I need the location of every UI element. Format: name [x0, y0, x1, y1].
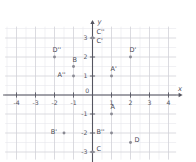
x-axis-label: x [177, 85, 183, 93]
data-point-label-App: A'' [57, 71, 65, 79]
data-point-Cpp [91, 37, 94, 40]
data-point-label-C: C [97, 145, 102, 153]
data-point-label-A: A [111, 103, 116, 111]
x-tick-label: 2 [129, 99, 133, 106]
data-point-D [129, 141, 132, 144]
x-tick-label: 4 [167, 99, 171, 106]
y-tick-label: 2 [84, 53, 88, 60]
y-tick-label: -2 [81, 129, 87, 136]
data-point-label-D: D [135, 136, 140, 144]
data-point-B [72, 65, 75, 68]
axes-group [3, 20, 183, 162]
data-point-App [72, 75, 75, 78]
data-point-Ap [110, 75, 113, 78]
data-point-label-Bpp: B'' [96, 128, 104, 136]
x-tick-label: -1 [70, 99, 76, 106]
data-point-label-Cpp: C'' [97, 28, 105, 36]
data-point-label-Dp: D' [130, 46, 137, 54]
origin-label: 0 [85, 87, 89, 94]
coordinate-plane-figure: -4-3-2-101234321-1-2-3 xy ABCDA'B'C'D'A'… [0, 0, 196, 162]
x-axis-arrow [179, 93, 183, 97]
y-tick-label: -1 [81, 110, 87, 117]
data-point-label-Cp: C' [97, 37, 104, 45]
y-tick-label: 1 [84, 72, 88, 79]
y-tick-label: -3 [81, 148, 87, 155]
y-axis-label: y [97, 18, 103, 26]
x-tick-label: -2 [51, 99, 57, 106]
major-gridlines [5, 27, 176, 160]
y-axis-arrow [90, 20, 94, 24]
data-point-Bpp [110, 132, 113, 135]
data-point-label-Dpp: D'' [53, 46, 62, 54]
x-tick-label: -4 [13, 99, 19, 106]
x-tick-label: 3 [148, 99, 152, 106]
data-point-label-B: B [73, 56, 77, 64]
x-tick-label: -3 [32, 99, 38, 106]
data-point-Bp [63, 132, 66, 135]
plot-area: -4-3-2-101234321-1-2-3 xy ABCDA'B'C'D'A'… [0, 0, 196, 162]
data-point-C [91, 151, 94, 154]
data-point-A [110, 113, 113, 116]
y-tick-label: 3 [84, 34, 88, 41]
data-point-label-Bp: B' [51, 128, 57, 136]
coordinate-grid-svg: -4-3-2-101234321-1-2-3 xy ABCDA'B'C'D'A'… [0, 0, 196, 162]
data-point-label-Ap: A' [111, 65, 117, 73]
minor-gridlines [5, 27, 176, 160]
data-point-Dpp [53, 56, 56, 59]
data-point-Dp [129, 56, 132, 59]
